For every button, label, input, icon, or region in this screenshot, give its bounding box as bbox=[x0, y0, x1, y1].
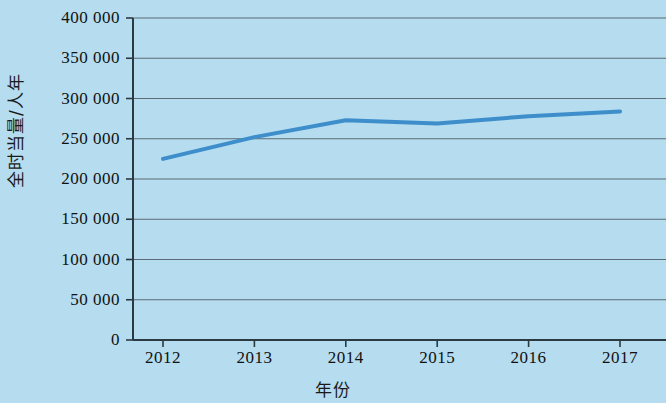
plot-area bbox=[0, 0, 666, 403]
x-axis-tick-label: 2016 bbox=[511, 348, 547, 368]
x-axis-tick-label: 2012 bbox=[145, 348, 181, 368]
data-series-line bbox=[163, 111, 620, 158]
x-axis-tick-label: 2017 bbox=[602, 348, 638, 368]
x-axis-tick-label: 2014 bbox=[328, 348, 364, 368]
line-chart: 全时当量/人年 050 000100 000150 000200 000250 … bbox=[0, 0, 666, 403]
x-axis-tick-label: 2015 bbox=[419, 348, 455, 368]
x-axis-tick-labels: 201220132014201520162017 bbox=[0, 348, 666, 376]
x-axis-title: 年份 bbox=[0, 376, 666, 401]
axis-ticks bbox=[126, 18, 620, 347]
gridlines bbox=[133, 18, 666, 300]
x-axis-tick-label: 2013 bbox=[236, 348, 272, 368]
